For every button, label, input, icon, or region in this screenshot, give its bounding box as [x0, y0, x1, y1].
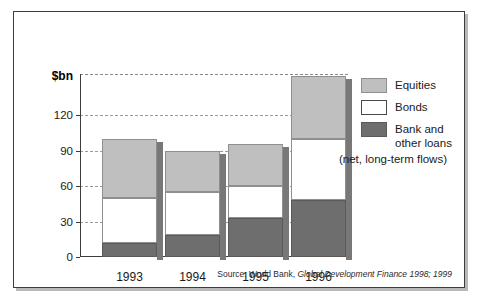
- source-note: Source: World Bank, Global Development F…: [217, 269, 452, 279]
- chart-figure: $bn 120 90 60 30 0 1993: [0, 0, 478, 299]
- y-tick-label-90: 90: [60, 145, 73, 157]
- bar-segment-equities-1996[interactable]: [291, 76, 346, 139]
- bar-segment-bonds-1995[interactable]: [228, 186, 283, 218]
- y-tick-label-30: 30: [60, 216, 73, 228]
- legend-note: (net, long-term flows): [339, 153, 473, 165]
- bar-segment-loans-1995[interactable]: [228, 218, 283, 257]
- legend-swatch-loans-icon: [361, 122, 387, 137]
- bar-segment-loans-1994[interactable]: [165, 235, 220, 257]
- legend-label-loans: Bank and other loans: [395, 122, 452, 149]
- y-tick-mark-30: [76, 222, 80, 223]
- bar-group-1993[interactable]: 1993: [102, 74, 157, 257]
- source-title: Global Development Finance 1998; 1999: [297, 269, 452, 279]
- x-tick-label-1993: 1993: [102, 270, 157, 284]
- source-prefix: Source: World Bank,: [217, 269, 297, 279]
- legend-label-bonds: Bonds: [395, 100, 428, 114]
- bar-segment-bonds-1994[interactable]: [165, 192, 220, 235]
- y-tick-mark-120: [76, 115, 80, 116]
- y-tick-label-120: 120: [54, 109, 73, 121]
- legend-label-loans-line2: other loans: [395, 136, 452, 150]
- x-tick-label-1994: 1994: [165, 270, 220, 284]
- bar-group-1994[interactable]: 1994: [165, 74, 220, 257]
- legend-label-loans-line1: Bank and: [395, 122, 452, 136]
- chart-panel: $bn 120 90 60 30 0 1993: [13, 11, 465, 288]
- stacked-bar-1996[interactable]: [291, 76, 346, 257]
- y-axis-title: $bn: [52, 69, 73, 83]
- bar-shadow-1995: [283, 147, 289, 260]
- bar-shadow-1993: [157, 142, 163, 260]
- stacked-bar-1994[interactable]: [165, 151, 220, 257]
- bar-group-1995[interactable]: 1995: [228, 74, 283, 257]
- stacked-bar-1993[interactable]: [102, 139, 157, 257]
- legend-item-bonds[interactable]: Bonds: [361, 100, 473, 115]
- bar-shadow-1994: [220, 154, 226, 260]
- legend-label-equities: Equities: [395, 78, 436, 92]
- y-tick-mark-90: [76, 151, 80, 152]
- stacked-bar-1995[interactable]: [228, 144, 283, 257]
- legend-swatch-equities-icon: [361, 78, 387, 93]
- y-axis-line: [80, 74, 81, 257]
- bar-shadow-1996: [346, 79, 352, 260]
- legend-item-loans[interactable]: Bank and other loans: [361, 122, 473, 149]
- bar-segment-equities-1993[interactable]: [102, 139, 157, 198]
- bar-segment-loans-1996[interactable]: [291, 200, 346, 257]
- bar-segment-equities-1995[interactable]: [228, 144, 283, 187]
- legend-item-equities[interactable]: Equities: [361, 78, 473, 93]
- plot-area: $bn 120 90 60 30 0 1993: [80, 74, 348, 257]
- bar-segment-loans-1993[interactable]: [102, 243, 157, 257]
- bar-segment-bonds-1993[interactable]: [102, 198, 157, 243]
- bar-group-1996[interactable]: 1996: [291, 74, 346, 257]
- legend-swatch-bonds-icon: [361, 100, 387, 115]
- y-tick-label-0: 0: [67, 251, 73, 263]
- y-tick-label-60: 60: [60, 180, 73, 192]
- bar-segment-bonds-1996[interactable]: [291, 139, 346, 200]
- y-tick-mark-0: [76, 257, 80, 258]
- y-tick-mark-60: [76, 186, 80, 187]
- chart-legend: Equities Bonds Bank and other loans (net…: [361, 78, 473, 165]
- bar-segment-equities-1994[interactable]: [165, 151, 220, 192]
